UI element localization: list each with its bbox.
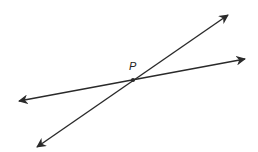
- intersecting-lines-diagram: P: [0, 0, 258, 152]
- point-label: P: [129, 60, 137, 72]
- intersection-point: [131, 78, 135, 82]
